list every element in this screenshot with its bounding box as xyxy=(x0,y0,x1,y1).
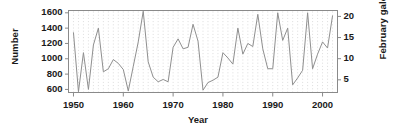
y-tick-label-left: 1600 xyxy=(41,6,62,17)
y-axis-label-right: February gales xyxy=(377,0,388,60)
x-tick-label: 1970 xyxy=(148,99,198,110)
x-tick-label: 1950 xyxy=(48,99,98,110)
x-tick-label: 1990 xyxy=(248,99,298,110)
y-tick-label-left: 1000 xyxy=(41,52,62,63)
y-tick-label-right: 5 xyxy=(344,73,349,84)
x-tick-label: 1980 xyxy=(198,99,248,110)
x-tick-label: 1960 xyxy=(98,99,148,110)
x-axis-label: Year xyxy=(0,114,396,125)
y-tick-label-right: 15 xyxy=(344,31,355,42)
chart-figure: Number February gales Year 6008001000120… xyxy=(0,0,396,130)
y-tick-label-left: 800 xyxy=(47,68,63,79)
x-tick-label: 2000 xyxy=(298,99,348,110)
y-tick-label-left: 1400 xyxy=(41,22,62,33)
chart-plot-area xyxy=(0,0,396,130)
y-tick-label-left: 1200 xyxy=(41,37,62,48)
y-tick-label-right: 20 xyxy=(344,10,355,21)
y-tick-label-right: 10 xyxy=(344,52,355,63)
plot-frame xyxy=(69,11,338,93)
y-axis-label-left: Number xyxy=(9,17,20,77)
y-tick-label-left: 600 xyxy=(47,83,63,94)
